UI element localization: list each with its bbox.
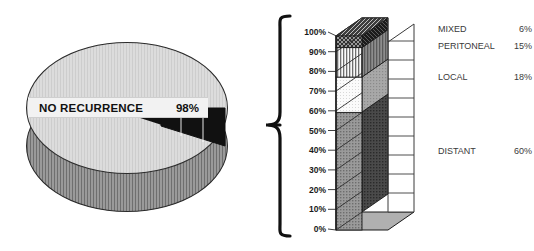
pie-slice-label: NO RECURRENCE: [39, 102, 143, 114]
legend-item-distant: DISTANT 60%: [438, 146, 532, 156]
legend-label-local: LOCAL: [438, 72, 468, 82]
legend-item-mixed: MIXED 6%: [438, 24, 532, 34]
connector-brace: [266, 12, 294, 240]
y-axis-leader-lines: [292, 8, 442, 246]
pie-slice-value: 98%: [176, 102, 199, 114]
legend-value-mixed: 6%: [519, 24, 532, 34]
legend-label-peritoneal: PERITONEAL: [438, 41, 495, 51]
pie-chart: NO RECURRENCE 98%: [8, 22, 258, 232]
legend-label-mixed: MIXED: [438, 24, 467, 34]
pie-slice-banner: NO RECURRENCE 98%: [28, 97, 208, 118]
legend-item-peritoneal: PERITONEAL 15%: [438, 41, 532, 51]
legend-label-distant: DISTANT: [438, 146, 476, 156]
figure-root: NO RECURRENCE 98% 100% 90% 80% 70% 60% 5…: [0, 0, 534, 251]
stacked-bar-chart: 100% 90% 80% 70% 60% 50% 40% 30% 20% 10%…: [292, 8, 442, 246]
legend-value-peritoneal: 15%: [514, 41, 532, 51]
legend-value-local: 18%: [514, 72, 532, 82]
legend-item-local: LOCAL 18%: [438, 72, 532, 82]
legend-value-distant: 60%: [514, 146, 532, 156]
